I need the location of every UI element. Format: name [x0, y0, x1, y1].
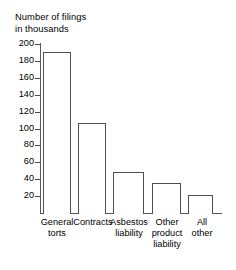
bar: [152, 183, 181, 214]
y-axis-tick: [35, 95, 40, 96]
category-label-line: All: [176, 217, 228, 228]
y-axis-tick: [35, 44, 40, 45]
y-axis-tick: [35, 61, 40, 62]
plot-area: 20018016014012010080604020 GeneraltortsC…: [0, 0, 236, 270]
y-axis-tick-label: 140: [19, 90, 34, 99]
y-axis-tick: [35, 196, 40, 197]
y-axis-tick: [35, 162, 40, 163]
category-label-line: liability: [138, 239, 196, 250]
y-axis-tick-label: 100: [19, 124, 34, 133]
y-axis-tick-label: 40: [24, 174, 34, 183]
y-axis-tick: [35, 78, 40, 79]
bar: [43, 52, 71, 214]
y-axis-tick-label: 60: [24, 157, 34, 166]
y-axis-tick: [35, 129, 40, 130]
y-axis-tick-label: 160: [19, 73, 34, 82]
category-label-line: other: [176, 228, 228, 239]
bar: [113, 172, 144, 214]
bar: [78, 123, 106, 214]
y-axis-tick-label: 80: [24, 140, 34, 149]
y-axis-tick-label: 200: [19, 39, 34, 48]
bar: [188, 195, 213, 214]
x-axis-category-label: Allother: [176, 217, 228, 239]
y-axis-tick: [35, 112, 40, 113]
category-label-line: torts: [28, 228, 86, 239]
y-axis-tick: [35, 145, 40, 146]
y-axis-tick-label: 180: [19, 56, 34, 65]
y-axis-tick: [35, 179, 40, 180]
y-axis-tick-label: 120: [19, 107, 34, 116]
y-axis-tick-label: 20: [24, 191, 34, 200]
bar-chart: Number of filings in thousands 200180160…: [0, 0, 236, 270]
y-axis-line: [40, 43, 41, 214]
